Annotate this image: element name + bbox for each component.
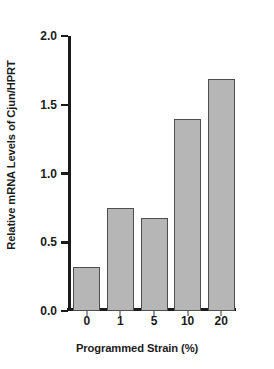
- bar-chart-figure: Relative mRNA Levels of Cjun/HPRT 0.00.5…: [0, 0, 274, 369]
- x-axis-title: Programmed Strain (%): [0, 342, 274, 354]
- bar: [141, 218, 168, 312]
- y-axis-tick-label: 1.5: [40, 98, 57, 112]
- bar: [107, 208, 134, 311]
- x-axis-tick-label: 20: [201, 314, 241, 328]
- y-axis-title: Relative mRNA Levels of Cjun/HPRT: [0, 0, 22, 310]
- y-axis-tick: 0.5: [61, 241, 68, 244]
- plot-area: 0.00.51.01.52.0: [68, 36, 236, 311]
- y-axis-tick: 0.0: [61, 310, 68, 313]
- y-axis-tick-label: 0.5: [40, 235, 57, 249]
- y-axis-tick: 2.0: [61, 35, 68, 38]
- bar: [73, 267, 100, 311]
- bar: [174, 119, 201, 312]
- y-axis-tick: 1.5: [61, 104, 68, 107]
- y-axis-line: [68, 36, 71, 311]
- bar: [208, 79, 235, 311]
- y-axis-tick-label: 2.0: [40, 29, 57, 43]
- y-axis-tick-label: 0.0: [40, 304, 57, 318]
- y-axis-tick: 1.0: [61, 172, 68, 175]
- y-axis-tick-label: 1.0: [40, 167, 57, 181]
